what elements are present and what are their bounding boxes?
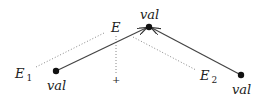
label-e1: E1 [15, 67, 32, 83]
label-e1-sub: 1 [27, 73, 33, 83]
node-top-label: val [140, 8, 159, 21]
dotted-edge-e-e2 [133, 37, 196, 70]
plus-sign: + [112, 75, 120, 85]
node-left-label: val [47, 79, 66, 92]
label-e2: E2 [200, 69, 217, 85]
label-e: E [111, 21, 121, 34]
node-right-label: val [232, 83, 251, 96]
node-left [53, 68, 59, 74]
label-e1-base: E [15, 66, 25, 81]
label-e2-sub: 2 [212, 75, 218, 85]
node-right [238, 72, 244, 78]
diagram-canvas [0, 0, 263, 97]
dotted-edge-e1-e [36, 33, 104, 67]
label-e2-base: E [200, 68, 210, 83]
node-top [146, 24, 152, 30]
edge-right-to-top [152, 28, 241, 75]
